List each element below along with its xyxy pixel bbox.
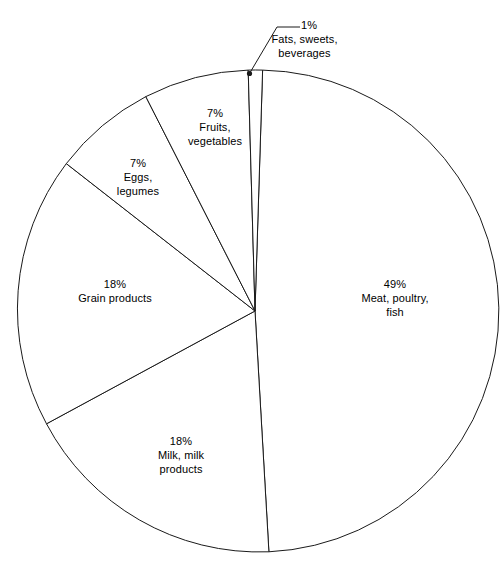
slice-name-eggs-legumes-line2: legumes [85,184,191,198]
slice-percent-grain-products: 18% [50,277,180,291]
slice-name-milk-milk-products-line2: products [126,462,236,476]
slice-name-milk-milk-products-line1: Milk, milk [126,448,236,462]
slice-percent-fats-sweets-beverages: 1% [253,18,403,32]
slice-percent-eggs-legumes: 7% [85,156,191,170]
slice-label-eggs-legumes: 7% Eggs, legumes [85,156,191,198]
slice-label-meat-poultry-fish: 49% Meat, poultry, fish [337,277,453,319]
slice-name-fruits-vegetables-line1: Fruits, [160,120,270,134]
slice-percent-milk-milk-products: 18% [126,434,236,448]
slice-name-grain-products-line1: Grain products [50,291,180,305]
slice-name-fats-sweets-beverages-line2: beverages [253,46,356,60]
slice-name-meat-poultry-fish-line2: fish [337,305,453,319]
slice-name-fats-sweets-beverages-line1: Fats, sweets, [253,32,356,46]
slice-label-milk-milk-products: 18% Milk, milk products [126,434,236,476]
slice-label-fats-sweets-beverages: 1% Fats, sweets, beverages [253,18,403,60]
slice-name-eggs-legumes-line1: Eggs, [85,170,191,184]
slice-name-meat-poultry-fish-line1: Meat, poultry, [337,291,453,305]
slice-label-fruits-vegetables: 7% Fruits, vegetables [160,106,270,148]
leader-dot-icon [247,71,252,76]
slice-percent-fruits-vegetables: 7% [160,106,270,120]
slice-name-fruits-vegetables-line2: vegetables [160,134,270,148]
slice-label-grain-products: 18% Grain products [50,277,180,305]
pie-chart: 1% Fats, sweets, beverages 7% Fruits, ve… [0,0,501,566]
slice-percent-meat-poultry-fish: 49% [337,277,453,291]
